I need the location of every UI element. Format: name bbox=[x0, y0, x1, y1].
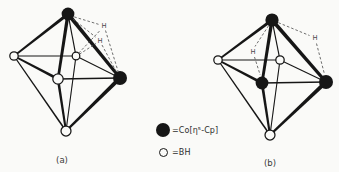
bond-front-right bbox=[58, 77, 120, 79]
bond-left-front bbox=[218, 59, 263, 84]
vertex-bh-back bbox=[276, 56, 284, 64]
cluster-figure: HHHH =Co[η⁵-Cp] =BH (a) (b) bbox=[0, 0, 339, 172]
bond-front-bottom bbox=[57, 79, 67, 131]
vertex-bh-left bbox=[214, 56, 222, 64]
bond-back-bottom bbox=[65, 56, 76, 131]
legend-label-bh: =BH bbox=[172, 148, 191, 157]
bridge-h-label: H bbox=[250, 48, 255, 56]
vertex-co-right bbox=[113, 71, 127, 85]
structure-a-caption: (a) bbox=[56, 155, 68, 165]
legend-item-co-cp: =Co[η⁵-Cp] bbox=[155, 122, 218, 138]
bond-left-back bbox=[218, 60, 280, 61]
bond-left-front bbox=[14, 55, 59, 80]
open-circle-icon bbox=[159, 148, 168, 157]
bond-front-right bbox=[262, 81, 326, 83]
bond-top-front bbox=[57, 14, 70, 79]
structure-a: HH bbox=[10, 8, 127, 136]
bh-legend-icon bbox=[155, 144, 171, 160]
bridge-h-label: H bbox=[97, 37, 102, 45]
bond-bottom-right bbox=[65, 77, 121, 132]
legend: =Co[η⁵-Cp] =BH bbox=[155, 122, 218, 160]
structure-b-caption: (b) bbox=[264, 158, 276, 168]
bond-back-bottom bbox=[269, 60, 280, 135]
vertex-co-top bbox=[265, 13, 278, 26]
vertex-co-top bbox=[62, 8, 75, 21]
vertex-bh-front bbox=[53, 74, 63, 84]
bridge-h-dashed-bond bbox=[317, 44, 325, 74]
legend-label-co-cp: =Co[η⁵-Cp] bbox=[172, 126, 218, 135]
bridge-h-label: H bbox=[101, 22, 106, 30]
vertex-bh-bottom bbox=[61, 126, 71, 136]
structure-b: HH bbox=[214, 13, 333, 140]
vertex-co-front bbox=[256, 77, 269, 90]
bond-top-left bbox=[218, 19, 273, 61]
bond-left-back bbox=[14, 56, 76, 57]
bond-front-bottom bbox=[261, 83, 271, 135]
legend-item-bh: =BH bbox=[155, 144, 218, 160]
bond-top-front bbox=[261, 20, 274, 83]
bond-top-right bbox=[271, 19, 328, 83]
vertex-co-right bbox=[319, 75, 333, 89]
vertex-bh-left bbox=[10, 52, 18, 60]
bond-back-right bbox=[280, 60, 326, 83]
bond-top-left bbox=[14, 13, 70, 57]
bridge-h-label: H bbox=[312, 34, 317, 42]
vertex-bh-bottom bbox=[265, 130, 275, 140]
bond-bottom-right bbox=[269, 81, 327, 136]
co-cp-legend-icon bbox=[155, 122, 171, 138]
filled-circle-icon bbox=[156, 123, 170, 137]
vertex-bh-back bbox=[72, 52, 80, 60]
